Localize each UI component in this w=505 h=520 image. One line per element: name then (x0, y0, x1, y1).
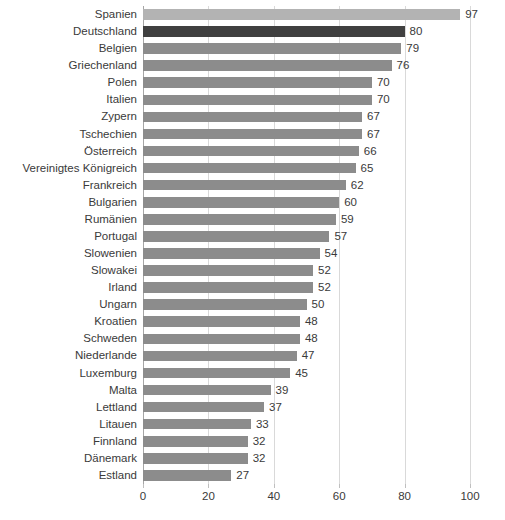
bar[interactable] (143, 43, 401, 54)
bar-container: 32 (143, 450, 505, 467)
bar-container: 57 (143, 228, 505, 245)
x-tick-mark (405, 484, 406, 488)
x-tick-label: 80 (398, 490, 411, 502)
chart-row: Niederlande47 (0, 347, 505, 364)
chart-row: Finnland32 (0, 433, 505, 450)
bar-container: 66 (143, 143, 505, 160)
category-label: Belgien (0, 40, 137, 57)
bar[interactable] (143, 351, 297, 362)
chart-row: Lettland37 (0, 399, 505, 416)
bar[interactable] (143, 60, 392, 71)
x-tick-label: 20 (202, 490, 215, 502)
category-label: Griechenland (0, 57, 137, 74)
category-label: Vereinigtes Königreich (0, 160, 137, 177)
x-tick-mark (274, 484, 275, 488)
value-label: 76 (397, 57, 410, 74)
bar[interactable] (143, 453, 248, 464)
category-label: Slowakei (0, 262, 137, 279)
chart-row: Bulgarien60 (0, 194, 505, 211)
chart-row: Portugal57 (0, 228, 505, 245)
value-label: 62 (351, 177, 364, 194)
chart-row: Luxemburg45 (0, 365, 505, 382)
bar[interactable] (143, 231, 329, 242)
bar[interactable] (143, 282, 313, 293)
category-label: Österreich (0, 143, 137, 160)
value-label: 33 (256, 416, 269, 433)
x-tick-mark (208, 484, 209, 488)
bar[interactable] (143, 95, 372, 106)
x-tick-label: 0 (140, 490, 146, 502)
value-label: 52 (318, 262, 331, 279)
bar[interactable] (143, 402, 264, 413)
bar[interactable] (143, 180, 346, 191)
bar[interactable] (143, 77, 372, 88)
chart-row: Vereinigtes Königreich65 (0, 160, 505, 177)
bar[interactable] (143, 146, 359, 157)
bar[interactable] (143, 385, 271, 396)
bar-container: 70 (143, 91, 505, 108)
x-tick-mark (143, 484, 144, 488)
category-label: Polen (0, 74, 137, 91)
chart-row: Rumänien59 (0, 211, 505, 228)
bar[interactable] (143, 26, 405, 37)
chart-row: Italien70 (0, 91, 505, 108)
bar[interactable] (143, 265, 313, 276)
chart-row: Spanien97 (0, 6, 505, 23)
value-label: 32 (253, 450, 266, 467)
bar[interactable] (143, 419, 251, 430)
category-label: Irland (0, 279, 137, 296)
bar[interactable] (143, 299, 307, 310)
x-axis: 020406080100 (0, 484, 505, 514)
bar-container: 67 (143, 126, 505, 143)
value-label: 48 (305, 330, 318, 347)
bar[interactable] (143, 470, 231, 481)
category-label: Malta (0, 382, 137, 399)
value-label: 70 (377, 74, 390, 91)
bar[interactable] (143, 129, 362, 140)
value-label: 65 (361, 160, 374, 177)
value-label: 79 (406, 40, 419, 57)
value-label: 67 (367, 108, 380, 125)
chart-row: Schweden48 (0, 330, 505, 347)
chart-row: Österreich66 (0, 143, 505, 160)
bar-container: 54 (143, 245, 505, 262)
bar-container: 48 (143, 313, 505, 330)
bar[interactable] (143, 248, 320, 259)
category-label: Italien (0, 91, 137, 108)
bar[interactable] (143, 436, 248, 447)
bar[interactable] (143, 197, 339, 208)
chart-row: Malta39 (0, 382, 505, 399)
category-label: Estland (0, 467, 137, 484)
value-label: 60 (344, 194, 357, 211)
chart-row: Deutschland80 (0, 23, 505, 40)
bar[interactable] (143, 368, 290, 379)
value-label: 97 (465, 6, 478, 23)
category-label: Spanien (0, 6, 137, 23)
bar[interactable] (143, 112, 362, 123)
category-label: Ungarn (0, 296, 137, 313)
value-label: 39 (276, 382, 289, 399)
category-label: Lettland (0, 399, 137, 416)
category-label: Rumänien (0, 211, 137, 228)
category-label: Niederlande (0, 347, 137, 364)
value-label: 50 (312, 296, 325, 313)
bar-container: 65 (143, 160, 505, 177)
category-label: Litauen (0, 416, 137, 433)
bar-container: 62 (143, 177, 505, 194)
chart-row: Dänemark32 (0, 450, 505, 467)
bar-container: 80 (143, 23, 505, 40)
value-label: 32 (253, 433, 266, 450)
chart-row: Ungarn50 (0, 296, 505, 313)
bar-container: 60 (143, 194, 505, 211)
bar[interactable] (143, 334, 300, 345)
bar[interactable] (143, 163, 356, 174)
value-label: 52 (318, 279, 331, 296)
chart-row: Polen70 (0, 74, 505, 91)
bar[interactable] (143, 9, 460, 20)
bar[interactable] (143, 316, 300, 327)
value-label: 45 (295, 365, 308, 382)
bar[interactable] (143, 214, 336, 225)
bar-container: 45 (143, 365, 505, 382)
category-label: Portugal (0, 228, 137, 245)
value-label: 59 (341, 211, 354, 228)
